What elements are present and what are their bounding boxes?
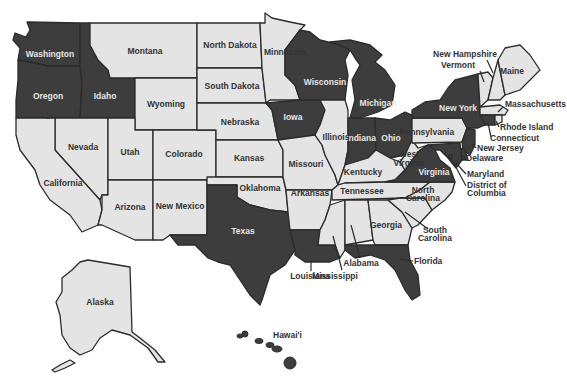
label-ohio: Ohio (381, 133, 400, 143)
label-minnesota: Minnesota (264, 47, 306, 57)
label-north-carolina-2: Carolina (406, 193, 440, 203)
label-oklahoma: Oklahoma (239, 183, 280, 193)
state-oregon[interactable] (16, 60, 82, 118)
state-washington[interactable] (13, 22, 80, 66)
label-michigan: Michigan (360, 98, 397, 108)
label-delaware: Delaware (466, 153, 504, 163)
state-alaska[interactable] (56, 260, 165, 362)
label-texas: Texas (231, 226, 255, 236)
label-west-virginia-2: Virginia (393, 158, 424, 168)
label-alabama: Alabama (343, 258, 379, 268)
label-north-dakota: North Dakota (203, 40, 257, 50)
state-dc[interactable] (449, 155, 452, 158)
label-arkansas: Arkansas (291, 188, 330, 198)
label-louisiana: Louisiana (290, 271, 330, 281)
label-illinois: Illinois (323, 132, 350, 142)
label-pennsylvania: Pennsylvania (400, 127, 455, 137)
label-arizona: Arizona (114, 202, 145, 212)
label-rhode-island: Rhode Island (500, 122, 553, 132)
label-nebraska: Nebraska (221, 117, 260, 127)
label-montana: Montana (128, 46, 163, 56)
label-connecticut: Connecticut (490, 133, 539, 143)
label-georgia: Georgia (370, 220, 402, 230)
label-indiana: Indiana (346, 133, 376, 143)
label-idaho: Idaho (94, 91, 117, 101)
label-virginia: Virginia (418, 167, 449, 177)
label-oregon: Oregon (33, 91, 63, 101)
label-utah: Utah (121, 147, 140, 157)
us-states-map: Washington Oregon Idaho Texas Iowa Wisco… (0, 0, 567, 389)
label-new-hampshire: New Hampshire (433, 49, 497, 59)
label-vermont: Vermont (441, 60, 475, 70)
label-hawaii: Hawai'i (273, 330, 302, 340)
label-kentucky: Kentucky (344, 167, 383, 177)
label-south-carolina-2: Carolina (418, 233, 452, 243)
label-iowa: Iowa (284, 112, 303, 122)
label-colorado: Colorado (165, 149, 202, 159)
label-alaska: Alaska (86, 297, 114, 307)
label-new-jersey: New Jersey (477, 143, 524, 153)
label-massachusetts: Massachusetts (505, 99, 566, 109)
label-california: California (43, 178, 82, 188)
label-wyoming: Wyoming (147, 99, 185, 109)
label-tennessee: Tennessee (340, 186, 384, 196)
label-dc-2: Columbia (467, 188, 506, 198)
label-new-mexico: New Mexico (156, 201, 205, 211)
label-washington: Washington (26, 49, 74, 59)
label-south-dakota: South Dakota (205, 81, 260, 91)
label-florida: Florida (414, 256, 443, 266)
label-kansas: Kansas (234, 153, 265, 163)
label-nevada: Nevada (68, 142, 99, 152)
label-wisconsin: Wisconsin (304, 77, 346, 87)
label-new-york: New York (439, 103, 477, 113)
label-maine: Maine (500, 66, 524, 76)
label-missouri: Missouri (289, 159, 324, 169)
state-massachusetts[interactable] (480, 105, 508, 115)
label-maryland: Maryland (467, 169, 504, 179)
